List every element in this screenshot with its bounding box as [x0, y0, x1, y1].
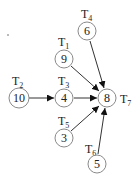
- node-t6: T6 5: [85, 142, 106, 173]
- node-label: T3: [58, 74, 69, 90]
- node-value: 9: [61, 52, 67, 66]
- node-label: T5: [58, 114, 69, 130]
- edge-t5-t7: [71, 106, 99, 131]
- node-t7: 8 T7: [98, 89, 131, 108]
- task-graph: T4 6 T1 9 T2 10 T3 4 8 T7 T5 3 T6 5: [0, 0, 139, 183]
- edge-t1-t7: [71, 66, 99, 91]
- stray-dot: [7, 34, 9, 36]
- node-value: 5: [94, 157, 100, 171]
- node-value: 6: [84, 24, 90, 38]
- node-t3: T3 4: [55, 74, 73, 107]
- node-label: T7: [120, 92, 131, 108]
- node-t4: T4 6: [78, 7, 96, 40]
- edge-t6-t7: [98, 108, 105, 154]
- edge-t4-t7: [90, 41, 104, 88]
- node-t1: T1 9: [55, 35, 73, 68]
- node-t5: T5 3: [55, 114, 73, 147]
- node-value: 4: [61, 91, 67, 105]
- node-value: 10: [13, 91, 25, 105]
- node-label: T4: [81, 7, 92, 23]
- node-value: 3: [61, 131, 67, 145]
- node-label: T1: [58, 35, 69, 51]
- node-t2: T2 10: [9, 74, 29, 108]
- node-value: 8: [104, 91, 110, 105]
